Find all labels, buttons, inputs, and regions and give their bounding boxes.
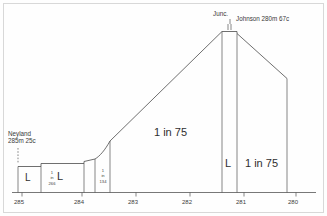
station-label-johnson: Johnson 280m 67c	[236, 15, 289, 22]
station-position-johnson: 280m 67c	[262, 15, 290, 22]
rail-profile-line	[18, 32, 287, 167]
gradient-profile-page: Neyland 285m 25c Junc. Johnson 280m 67c …	[0, 0, 327, 216]
station-label-neyland: Neyland 285m 25c	[8, 130, 36, 144]
axis-tick-label-280: 280	[288, 199, 298, 206]
axis-tick-label-283: 283	[128, 199, 138, 206]
axis-tick-label-281: 281	[236, 199, 246, 206]
gradient-2-value: 134	[96, 179, 110, 184]
level-label-right: L	[225, 157, 231, 169]
gradient-label-descend-1-in-75: 1 in 75	[245, 157, 278, 169]
junction-label: Junc.	[213, 10, 228, 17]
gradient-label-climb-1-in-75: 1 in 75	[154, 126, 187, 138]
station-position-neyland: 285m 25c	[8, 137, 36, 144]
level-label-left-first: L	[25, 172, 31, 183]
axis-tick-label-285: 285	[14, 199, 24, 206]
station-name-johnson: Johnson	[236, 15, 260, 22]
station-name-neyland: Neyland	[8, 130, 36, 137]
gradient-label-1-in-134: 1 in 134	[96, 168, 110, 184]
level-label-left-second: L	[57, 170, 63, 182]
axis-tick-label-282: 282	[182, 199, 192, 206]
axis-tick-label-284: 284	[74, 199, 84, 206]
